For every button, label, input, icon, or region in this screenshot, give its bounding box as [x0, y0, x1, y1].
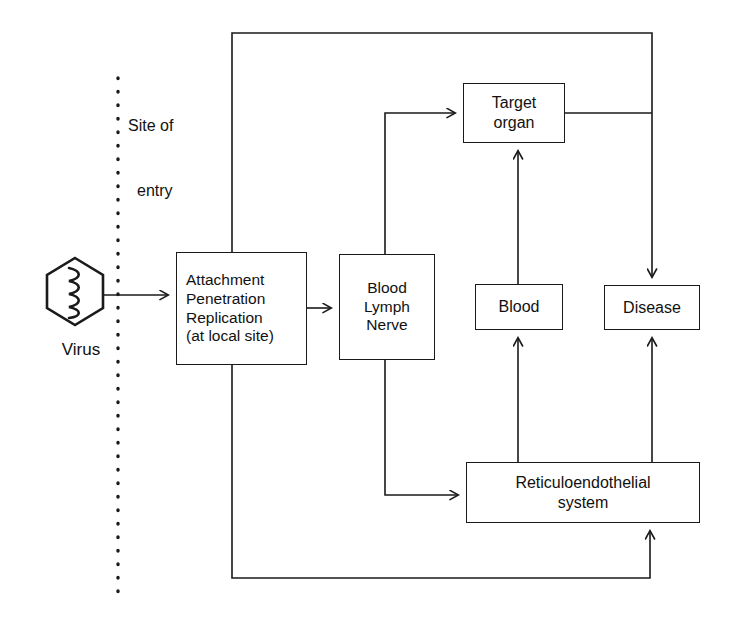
- viral-pathogenesis-diagram: Virus Site of entry Attachment Penetrati…: [0, 0, 744, 621]
- blood-lymph-nerve-line-3: Nerve: [366, 316, 407, 335]
- attachment-line-2: Penetration: [186, 290, 265, 309]
- disease-line-1: Disease: [623, 298, 681, 318]
- node-target-organ[interactable]: Target organ: [463, 83, 565, 143]
- node-reticuloendothelial-system[interactable]: Reticuloendothelial system: [466, 462, 700, 523]
- node-attachment-penetration-replication[interactable]: Attachment Penetration Replication (at l…: [176, 252, 307, 365]
- site-of-entry-line-1: Site of: [128, 115, 173, 137]
- edge-blood-lymph-nerve-to-target-organ: [385, 113, 455, 254]
- virus-label: Virus: [33, 340, 129, 360]
- blood-lymph-nerve-line-1: Blood: [367, 279, 407, 298]
- attachment-line-3: Replication: [186, 309, 263, 328]
- blood-lymph-nerve-line-2: Lymph: [364, 298, 410, 317]
- attachment-line-4: (at local site): [186, 327, 274, 346]
- blood-line-1: Blood: [499, 297, 540, 317]
- node-disease[interactable]: Disease: [604, 285, 700, 330]
- site-of-entry-line-2: entry: [128, 180, 173, 202]
- reticuloendothelial-line-2: system: [558, 493, 609, 513]
- node-blood-lymph-nerve[interactable]: Blood Lymph Nerve: [339, 254, 435, 360]
- target-organ-line-2: organ: [494, 113, 535, 133]
- target-organ-line-1: Target: [492, 93, 536, 113]
- reticuloendothelial-line-1: Reticuloendothelial: [515, 473, 650, 493]
- edge-attachment-top-rail-to-disease: [232, 33, 652, 277]
- node-blood[interactable]: Blood: [475, 284, 563, 330]
- site-of-entry-label: Site of entry: [128, 72, 173, 245]
- edge-blood-lymph-nerve-to-reticuloendothelial: [385, 360, 458, 495]
- attachment-line-1: Attachment: [186, 271, 264, 290]
